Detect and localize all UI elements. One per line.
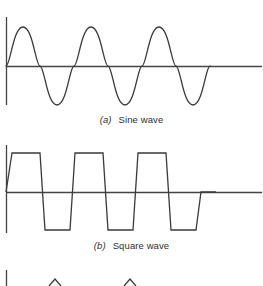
square-waveform-path [6,153,216,230]
square-wave-caption: (b)Square wave [0,240,263,251]
triangle-wave-plot [0,258,263,286]
sine-caption-text: Sine wave [119,114,164,125]
square-caption-label: (b) [94,240,106,251]
sine-wave-plot [0,0,263,112]
sine-wave-caption: (a)Sine wave [0,114,263,125]
sine-wave-svg [0,0,263,112]
triangle-peak-first [49,279,61,286]
triangle-peak-second [124,279,136,286]
waveform-figure: (a)Sine wave (b)Square wave [0,0,263,286]
square-wave-svg [0,136,263,238]
square-caption-text: Square wave [113,240,170,251]
square-wave-plot [0,136,263,238]
triangle-wave-svg [0,258,263,286]
sine-caption-label: (a) [100,114,112,125]
